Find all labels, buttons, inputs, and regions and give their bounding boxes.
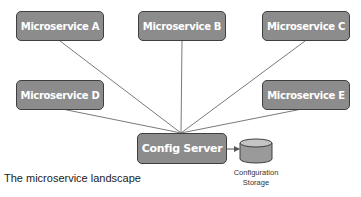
edge-ms-e-config — [181, 109, 302, 133]
edge-ms-b-config — [181, 41, 182, 133]
node-label: Microservice E — [267, 90, 345, 101]
node-label: Config Server — [142, 142, 223, 155]
microservice-landscape-diagram: Microservice A Microservice B Microservi… — [0, 0, 361, 197]
storage-label-line2: Storage — [221, 178, 291, 188]
node-microservice-a: Microservice A — [16, 11, 104, 41]
database-cylinder-icon — [240, 139, 272, 163]
edge-ms-d-config — [62, 109, 181, 133]
node-microservice-b: Microservice B — [138, 11, 226, 41]
storage-label-line1: Configuration — [221, 168, 291, 178]
node-label: Microservice A — [21, 21, 99, 32]
node-config-server: Config Server — [137, 133, 227, 164]
diagram-caption: The microservice landscape — [4, 172, 141, 184]
node-microservice-c: Microservice C — [262, 11, 350, 41]
node-label: Microservice B — [143, 21, 221, 32]
node-label: Microservice D — [20, 90, 99, 101]
node-microservice-e: Microservice E — [262, 80, 350, 110]
node-microservice-d: Microservice D — [16, 80, 104, 110]
node-label: Microservice C — [267, 21, 345, 32]
config-storage-label: Configuration Storage — [221, 168, 291, 188]
